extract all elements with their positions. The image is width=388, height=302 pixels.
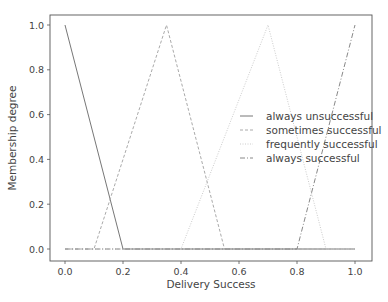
x-axis-ticks: 0.00.20.40.60.81.0: [57, 261, 362, 277]
x-tick-label: 0.2: [115, 266, 130, 277]
legend-label: always successful: [266, 152, 360, 164]
y-axis-label: Membership degree: [6, 85, 18, 190]
y-tick-label: 0.4: [29, 154, 44, 165]
x-tick-label: 0.4: [173, 266, 188, 277]
x-tick-label: 0.6: [231, 266, 246, 277]
x-tick-label: 1.0: [347, 266, 362, 277]
y-tick-label: 0.2: [29, 199, 44, 210]
x-tick-label: 0.8: [289, 266, 304, 277]
legend-label: sometimes successful: [266, 124, 381, 136]
x-axis-label: Delivery Success: [166, 278, 255, 290]
y-tick-label: 0.6: [29, 109, 44, 120]
x-tick-label: 0.0: [57, 266, 72, 277]
y-tick-label: 0.0: [29, 244, 44, 255]
legend-label: frequently successful: [266, 138, 378, 150]
legend-label: always unsuccessful: [266, 110, 373, 122]
membership-chart: 0.00.20.40.60.81.0 0.00.20.40.60.81.0 De…: [0, 0, 388, 302]
y-tick-label: 1.0: [29, 20, 44, 31]
y-axis-ticks: 0.00.20.40.60.81.0: [29, 20, 50, 255]
y-tick-label: 0.8: [29, 64, 44, 75]
